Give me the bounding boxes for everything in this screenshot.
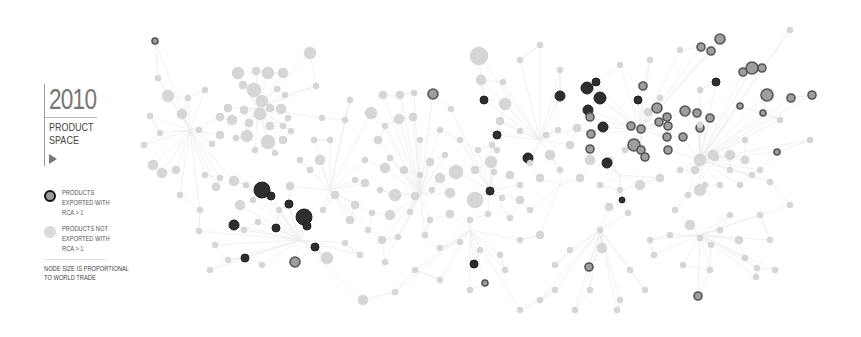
product-node[interactable] bbox=[499, 98, 511, 110]
product-node[interactable] bbox=[566, 141, 574, 149]
product-node[interactable] bbox=[573, 124, 581, 132]
product-node[interactable] bbox=[319, 115, 325, 121]
product-node[interactable] bbox=[202, 87, 208, 93]
product-node[interactable] bbox=[725, 150, 735, 160]
product-node-rca[interactable] bbox=[663, 113, 671, 121]
product-node[interactable] bbox=[502, 267, 508, 273]
product-node[interactable] bbox=[241, 227, 247, 233]
product-node[interactable] bbox=[499, 195, 505, 201]
product-node[interactable] bbox=[407, 209, 413, 215]
product-node[interactable] bbox=[411, 90, 417, 96]
product-node[interactable] bbox=[243, 182, 249, 188]
product-space-network[interactable] bbox=[0, 0, 861, 337]
product-node[interactable] bbox=[787, 202, 793, 208]
product-node-rca[interactable] bbox=[694, 292, 702, 300]
product-node-rca[interactable] bbox=[290, 257, 300, 267]
product-node-rca[interactable] bbox=[697, 43, 705, 51]
product-node-rca[interactable] bbox=[267, 192, 275, 200]
product-node[interactable] bbox=[409, 113, 417, 121]
product-node[interactable] bbox=[261, 135, 275, 149]
product-node[interactable] bbox=[694, 154, 706, 166]
product-node[interactable] bbox=[777, 117, 783, 123]
product-node-rca[interactable] bbox=[627, 122, 635, 130]
product-node[interactable] bbox=[617, 187, 623, 193]
product-node[interactable] bbox=[361, 179, 369, 187]
product-node[interactable] bbox=[389, 189, 401, 201]
product-node[interactable] bbox=[707, 267, 713, 273]
product-node[interactable] bbox=[527, 160, 533, 166]
product-node-rca[interactable] bbox=[592, 78, 600, 86]
product-node[interactable] bbox=[697, 87, 703, 93]
product-node[interactable] bbox=[527, 207, 533, 213]
product-node[interactable] bbox=[677, 47, 683, 53]
product-node[interactable] bbox=[457, 137, 463, 143]
product-node[interactable] bbox=[753, 274, 759, 280]
product-node[interactable] bbox=[358, 295, 368, 305]
product-node[interactable] bbox=[377, 187, 383, 193]
product-node[interactable] bbox=[342, 117, 348, 123]
product-node[interactable] bbox=[379, 91, 387, 99]
product-node[interactable] bbox=[517, 307, 523, 313]
product-node[interactable] bbox=[667, 232, 673, 238]
product-node[interactable] bbox=[285, 115, 291, 121]
product-node-rca[interactable] bbox=[746, 62, 758, 74]
product-node[interactable] bbox=[537, 297, 543, 303]
product-node[interactable] bbox=[622, 147, 628, 153]
product-node[interactable] bbox=[767, 179, 773, 185]
product-node[interactable] bbox=[625, 210, 631, 216]
product-node[interactable] bbox=[252, 67, 260, 75]
product-node-rca[interactable] bbox=[285, 200, 293, 208]
product-node-rca[interactable] bbox=[480, 96, 488, 104]
product-node-rca[interactable] bbox=[634, 96, 642, 104]
product-node[interactable] bbox=[605, 203, 613, 211]
product-node[interactable] bbox=[327, 137, 333, 143]
product-node[interactable] bbox=[304, 47, 316, 59]
product-node[interactable] bbox=[396, 91, 404, 99]
product-node[interactable] bbox=[767, 237, 773, 243]
product-node[interactable] bbox=[307, 167, 313, 173]
product-node[interactable] bbox=[217, 175, 223, 181]
product-node[interactable] bbox=[262, 67, 274, 79]
product-node[interactable] bbox=[387, 155, 393, 161]
product-node[interactable] bbox=[597, 182, 603, 188]
product-node[interactable] bbox=[229, 176, 239, 186]
product-node[interactable] bbox=[685, 192, 691, 198]
product-node[interactable] bbox=[489, 142, 495, 148]
product-node[interactable] bbox=[727, 167, 733, 173]
product-node[interactable] bbox=[276, 207, 282, 213]
product-node[interactable] bbox=[259, 262, 265, 268]
product-node-rca[interactable] bbox=[680, 106, 690, 116]
product-node-rca[interactable] bbox=[761, 89, 773, 101]
product-node[interactable] bbox=[313, 83, 319, 89]
product-node[interactable] bbox=[282, 92, 288, 98]
product-node[interactable] bbox=[411, 192, 419, 200]
product-node[interactable] bbox=[239, 81, 247, 89]
product-node[interactable] bbox=[536, 174, 544, 182]
product-node[interactable] bbox=[672, 207, 678, 213]
product-node[interactable] bbox=[212, 183, 220, 191]
product-node[interactable] bbox=[254, 108, 266, 120]
product-node[interactable] bbox=[297, 157, 303, 163]
product-node[interactable] bbox=[742, 137, 748, 143]
product-node-rca[interactable] bbox=[581, 82, 593, 94]
product-node-rca[interactable] bbox=[602, 158, 612, 168]
product-node[interactable] bbox=[157, 130, 163, 136]
product-node-rca[interactable] bbox=[706, 114, 714, 122]
product-node[interactable] bbox=[617, 297, 623, 303]
product-node[interactable] bbox=[735, 236, 743, 244]
product-node[interactable] bbox=[185, 95, 191, 101]
product-node[interactable] bbox=[485, 156, 497, 168]
product-node[interactable] bbox=[266, 122, 274, 130]
product-node[interactable] bbox=[587, 287, 593, 293]
product-node[interactable] bbox=[224, 104, 232, 112]
product-node[interactable] bbox=[543, 132, 549, 138]
product-node-rca[interactable] bbox=[303, 222, 311, 230]
product-node[interactable] bbox=[485, 211, 491, 217]
product-node[interactable] bbox=[445, 188, 455, 198]
product-node[interactable] bbox=[382, 259, 388, 265]
product-node[interactable] bbox=[442, 152, 448, 158]
product-node-rca[interactable] bbox=[664, 146, 672, 154]
product-node[interactable] bbox=[177, 192, 183, 198]
product-node[interactable] bbox=[467, 287, 473, 293]
product-node[interactable] bbox=[342, 240, 348, 246]
